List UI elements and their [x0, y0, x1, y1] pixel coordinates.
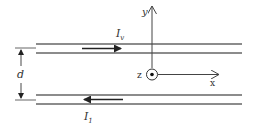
- bottom-wire: [36, 95, 242, 104]
- top-wire: [36, 44, 242, 53]
- z-axis-out-of-page-icon: [147, 69, 158, 80]
- y-axis-label: y: [141, 6, 148, 17]
- separation-label: d: [17, 68, 24, 81]
- top-current-label: Iv: [115, 27, 124, 42]
- parallel-wires-diagram: Iv I1 d y x z: [0, 0, 257, 126]
- bottom-current-label: I1: [83, 110, 93, 125]
- x-axis-label: x: [210, 78, 215, 88]
- z-axis-label: z: [137, 70, 142, 80]
